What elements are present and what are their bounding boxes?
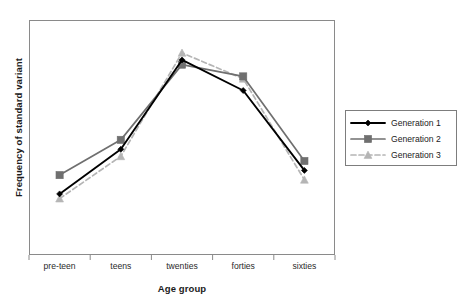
legend-label: Generation 2 <box>391 132 441 146</box>
x-axis-title: Age group <box>29 283 335 294</box>
x-axis-tick-labels: pre-teenteenstwentiesfortiessixties <box>29 260 335 276</box>
legend-item-1: Generation 1 <box>346 115 456 131</box>
x-tick-label-sixties: sixties <box>274 260 335 276</box>
y-axis-title: Frequency of standard variant <box>13 18 24 238</box>
x-tick-label-twenties: twenties <box>151 260 212 276</box>
legend-label: Generation 1 <box>391 116 441 130</box>
x-tick-label-pre-teen: pre-teen <box>29 260 90 276</box>
x-tick-label-teens: teens <box>90 260 151 276</box>
legend-marker-square-icon <box>350 132 386 146</box>
x-tick-label-forties: forties <box>213 260 274 276</box>
legend-marker-triangle-icon <box>350 148 386 162</box>
legend-item-2: Generation 2 <box>346 131 456 147</box>
chart-figure: Frequency of standard variant pre-teente… <box>0 0 463 307</box>
legend-marker-diamond-icon <box>350 116 386 130</box>
chart-legend: Generation 1Generation 2Generation 3 <box>345 110 457 166</box>
data-series-group <box>56 49 309 202</box>
legend-label: Generation 3 <box>391 148 441 162</box>
legend-item-3: Generation 3 <box>346 147 456 163</box>
